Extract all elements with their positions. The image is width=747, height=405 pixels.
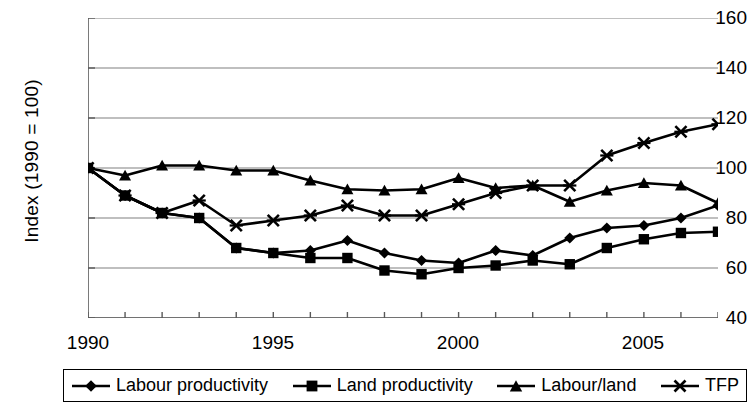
cross-marker [674,126,687,137]
diamond-marker [675,212,686,223]
plot-area [88,18,718,318]
chart-legend: Labour productivity Land productivity La… [63,369,747,402]
square-marker [639,234,649,244]
cross-marker [267,215,280,226]
cross-marker-icon [660,378,700,394]
series-tfp [88,119,718,231]
triangle-marker-icon [496,378,536,394]
x-tick-2005: 2005 [603,332,683,354]
legend-label-labour-land: Labour/land [541,375,636,396]
series-land-productivity [88,163,718,280]
x-tick-1990: 1990 [48,332,128,354]
triangle-marker [453,172,465,183]
chart-canvas [88,18,718,318]
chart-figure: Index (1990 = 100) 160 140 120 100 80 60… [0,0,747,405]
diamond-marker [564,232,575,243]
square-marker [453,263,463,273]
legend-label-labour-productivity: Labour productivity [116,375,268,396]
square-marker [305,253,315,263]
diamond-marker [342,235,353,246]
square-marker [231,243,241,253]
square-marker-icon [292,378,332,394]
square-marker [194,213,204,223]
diamond-marker [638,220,649,231]
diamond-marker [601,222,612,233]
diamond-marker [416,255,427,266]
cross-marker [415,210,428,221]
x-tick-2000: 2000 [418,332,498,354]
cross-marker [637,137,650,148]
cross-marker [600,150,613,161]
cross-marker [378,210,391,221]
series-labour-land [88,160,718,208]
legend-item-land-productivity[interactable]: Land productivity [292,375,473,396]
square-marker [602,243,612,253]
cross-marker [452,199,465,210]
square-marker [713,227,718,237]
legend-item-labour-land[interactable]: Labour/land [496,375,636,396]
square-marker [268,248,278,258]
diamond-marker [379,247,390,258]
cross-marker [230,220,243,231]
triangle-marker [712,197,718,208]
diamond-marker [490,245,501,256]
square-marker [490,260,500,270]
legend-item-tfp[interactable]: TFP [660,375,739,396]
x-tick-1995: 1995 [233,332,313,354]
cross-marker [563,180,576,191]
cross-marker [193,195,206,206]
square-marker [416,269,426,279]
cross-marker [711,119,718,130]
square-marker [528,255,538,265]
y-axis-label: Index (1990 = 100) [21,31,43,291]
cross-marker [341,200,354,211]
legend-item-labour-productivity[interactable]: Labour productivity [71,375,268,396]
square-marker [342,253,352,263]
square-marker [379,265,389,275]
cross-marker [304,210,317,221]
square-marker [565,259,575,269]
square-marker [676,228,686,238]
legend-label-land-productivity: Land productivity [337,375,473,396]
legend-label-tfp: TFP [705,375,739,396]
diamond-marker-icon [71,378,111,394]
